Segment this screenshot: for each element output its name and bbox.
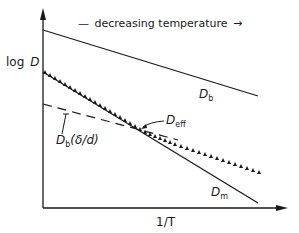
y-axis-arrow-icon — [40, 8, 46, 20]
x-axis — [43, 205, 288, 211]
dbdelta-leader-arrow-icon — [62, 114, 66, 134]
diffusion-arrhenius-diagram: log D — decreasing temperature → Db Deff… — [0, 0, 299, 233]
curve-deff — [43, 70, 261, 174]
label-deff: Deff — [166, 113, 186, 129]
label-db: Db — [199, 87, 213, 103]
curve-db — [43, 30, 258, 96]
header-annotation: — decreasing temperature → — [78, 17, 242, 30]
x-axis-arrow-icon — [276, 205, 288, 211]
x-axis-label: 1/T — [156, 215, 176, 229]
label-dm: Dm — [211, 185, 228, 201]
deff-leader-arrowhead-icon — [141, 124, 147, 129]
y-axis-label: log D — [6, 55, 39, 69]
label-db-delta-d: Db(δ/d) — [56, 133, 99, 149]
y-axis — [40, 8, 46, 208]
